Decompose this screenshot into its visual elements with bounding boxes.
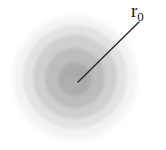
pointer-line [78,22,139,82]
figure-root: r0 [0,0,166,150]
radius-subscript: 0 [137,9,144,24]
radius-label: r0 [131,1,144,23]
